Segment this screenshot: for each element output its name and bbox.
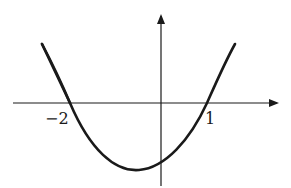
parabola-left-arm: [42, 44, 70, 103]
parabola-diagram: −2 1: [0, 0, 291, 188]
parabola-curve: [42, 44, 235, 170]
tick-label-neg2: −2: [45, 109, 69, 128]
tick-label-1: 1: [205, 109, 215, 128]
